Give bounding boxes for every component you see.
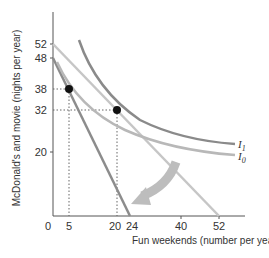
chart: 52 48 38 32 20 0 5 20 24 40 52 I1 I0 Fun… [0, 0, 269, 258]
y-tick-38: 38 [35, 83, 47, 95]
y-tick-32: 32 [35, 104, 47, 116]
y-tick-48: 48 [35, 52, 47, 64]
guide-lines [53, 89, 117, 216]
indifference-curve-i1 [79, 40, 235, 144]
x-tick-24: 24 [126, 220, 138, 232]
x-tick-5: 5 [66, 220, 72, 232]
point-20-32 [113, 106, 121, 114]
x-tick-52: 52 [213, 220, 225, 232]
x-tick-0: 0 [45, 220, 51, 232]
shift-arrow-icon [131, 162, 176, 205]
x-tick-40: 40 [175, 220, 187, 232]
y-tick-20: 20 [35, 146, 47, 158]
point-5-38 [65, 85, 73, 93]
tick-marks [50, 44, 219, 219]
x-axis-label: Fun weekends (number per year) [132, 235, 269, 246]
y-axis-label: McDonald's and movie (nights per year) [11, 30, 22, 206]
x-tick-20: 20 [109, 220, 121, 232]
y-tick-52: 52 [35, 38, 47, 50]
budget-line-new [53, 58, 130, 216]
budget-line-original [53, 44, 219, 216]
